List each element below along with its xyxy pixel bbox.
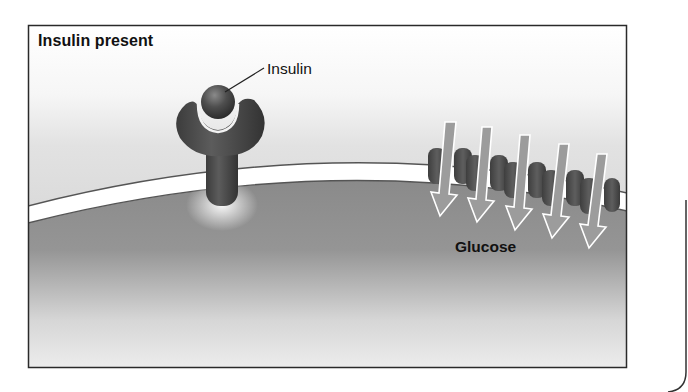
cytoplasm (20, 180, 640, 380)
bracket-line (668, 200, 686, 392)
diagram-canvas (0, 0, 688, 392)
insulin-label: Insulin (267, 60, 312, 78)
insulin-present-diagram: Insulin present Insulin Glucose (0, 0, 688, 392)
glucose-label: Glucose (455, 238, 516, 256)
insulin-ball-icon (201, 85, 235, 119)
panel-title: Insulin present (38, 32, 153, 50)
